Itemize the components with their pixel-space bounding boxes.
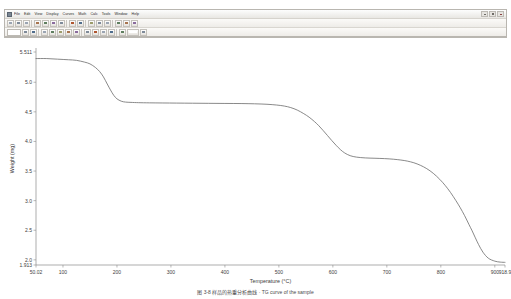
x-axis-title: Temperature (°C) bbox=[250, 278, 292, 284]
save-icon[interactable] bbox=[23, 20, 30, 27]
maximize-icon[interactable] bbox=[489, 11, 496, 17]
y-tick-label: 5.511 bbox=[20, 49, 32, 55]
x-tick-label: 918.9 bbox=[499, 269, 511, 275]
print-preview-icon[interactable] bbox=[42, 20, 49, 27]
x-tick-label: 500 bbox=[275, 269, 284, 275]
report-icon[interactable] bbox=[140, 29, 147, 36]
label-icon[interactable] bbox=[127, 29, 139, 36]
zoom-out-icon[interactable] bbox=[96, 20, 103, 27]
menu-item-calc[interactable]: Calc bbox=[90, 12, 97, 17]
x-tick-label: 100 bbox=[59, 269, 68, 275]
menu-item-file[interactable]: File bbox=[14, 12, 20, 17]
menu-item-window[interactable]: Window bbox=[114, 12, 127, 17]
legend-toggle-icon[interactable] bbox=[57, 29, 64, 36]
application-window: File Edit View Display Curves Math Calc … bbox=[4, 9, 507, 38]
menu-item-help[interactable]: Help bbox=[132, 12, 140, 17]
menu-item-display[interactable]: Display bbox=[46, 12, 58, 17]
menu-item-view[interactable]: View bbox=[34, 12, 42, 17]
cut-icon[interactable] bbox=[50, 20, 57, 27]
menu-bar[interactable]: File Edit View Display Curves Math Calc … bbox=[14, 12, 481, 17]
x-tick-label: 700 bbox=[383, 269, 392, 275]
copy-icon[interactable] bbox=[58, 20, 65, 27]
application-icon bbox=[7, 12, 12, 17]
y-tick-label: 4.5 bbox=[25, 109, 32, 115]
window-controls bbox=[481, 11, 504, 17]
analyze-icon[interactable] bbox=[123, 20, 130, 27]
data-series-line bbox=[36, 59, 505, 263]
paste-icon[interactable] bbox=[69, 20, 76, 27]
curve-style-icon[interactable] bbox=[41, 29, 48, 36]
toolbar-primary bbox=[5, 19, 506, 28]
axis-y-icon[interactable] bbox=[30, 29, 37, 36]
title-bar: File Edit View Display Curves Math Calc … bbox=[5, 10, 506, 19]
y-tick-label: 3.0 bbox=[25, 198, 32, 204]
toolbar2-separator-1 bbox=[38, 29, 40, 36]
toolbar-separator-3 bbox=[85, 20, 87, 27]
figure-caption-text: 图 3-8 样品的热重分析曲线 · TG curve of the sample bbox=[0, 288, 511, 296]
x-tick-label: 800 bbox=[437, 269, 446, 275]
y-tick-label: 4.0 bbox=[25, 138, 32, 144]
signal-select-icon[interactable] bbox=[7, 29, 21, 36]
zoom-in-icon[interactable] bbox=[88, 20, 95, 27]
onset-icon[interactable] bbox=[100, 29, 107, 36]
x-tick-label: 400 bbox=[221, 269, 230, 275]
figure-caption: 图 3-8 样品的热重分析曲线 · TG curve of the sample bbox=[0, 288, 511, 299]
integral-icon[interactable] bbox=[73, 29, 80, 36]
x-tick-label: 300 bbox=[167, 269, 176, 275]
y-tick-label: 1.913 bbox=[19, 262, 32, 268]
print-icon[interactable] bbox=[34, 20, 41, 27]
derivative-icon[interactable] bbox=[65, 29, 72, 36]
axis-x-icon[interactable] bbox=[22, 29, 29, 36]
close-icon[interactable] bbox=[497, 11, 504, 17]
minimize-icon[interactable] bbox=[481, 11, 488, 17]
tga-curve-plot: 5.5115.04.54.03.53.02.52.01.91350.021002… bbox=[0, 40, 511, 290]
menu-item-math[interactable]: Math bbox=[78, 12, 86, 17]
baseline-icon[interactable] bbox=[92, 29, 99, 36]
help-icon[interactable] bbox=[131, 20, 138, 27]
step-transition-icon[interactable] bbox=[119, 29, 126, 36]
toolbar-separator-2 bbox=[66, 20, 68, 27]
toolbar-secondary bbox=[5, 28, 506, 37]
y-tick-label: 5.0 bbox=[25, 79, 32, 85]
menu-item-tools[interactable]: Tools bbox=[102, 12, 111, 17]
new-icon[interactable] bbox=[7, 20, 14, 27]
app-root: File Edit View Display Curves Math Calc … bbox=[0, 0, 511, 299]
chart-canvas[interactable]: 5.5115.04.54.03.53.02.52.01.91350.021002… bbox=[0, 40, 511, 290]
crosshair-icon[interactable] bbox=[115, 20, 122, 27]
undo-icon[interactable] bbox=[77, 20, 84, 27]
x-tick-label: 50.02 bbox=[30, 269, 43, 275]
x-tick-label: 600 bbox=[329, 269, 338, 275]
toolbar2-separator-2 bbox=[81, 29, 83, 36]
toolbar-separator-1 bbox=[31, 20, 33, 27]
x-tick-label: 200 bbox=[113, 269, 122, 275]
open-icon[interactable] bbox=[15, 20, 22, 27]
peak-icon[interactable] bbox=[108, 29, 115, 36]
toolbar-separator-4 bbox=[112, 20, 114, 27]
smooth-icon[interactable] bbox=[84, 29, 91, 36]
menu-item-curves[interactable]: Curves bbox=[62, 12, 74, 17]
grid-toggle-icon[interactable] bbox=[49, 29, 56, 36]
toolbar2-separator-3 bbox=[116, 29, 118, 36]
y-tick-label: 2.5 bbox=[25, 227, 32, 233]
menu-item-edit[interactable]: Edit bbox=[24, 12, 30, 17]
y-tick-label: 3.5 bbox=[25, 168, 32, 174]
rescale-icon[interactable] bbox=[104, 20, 111, 27]
y-axis-title: Weight (mg) bbox=[9, 144, 15, 173]
